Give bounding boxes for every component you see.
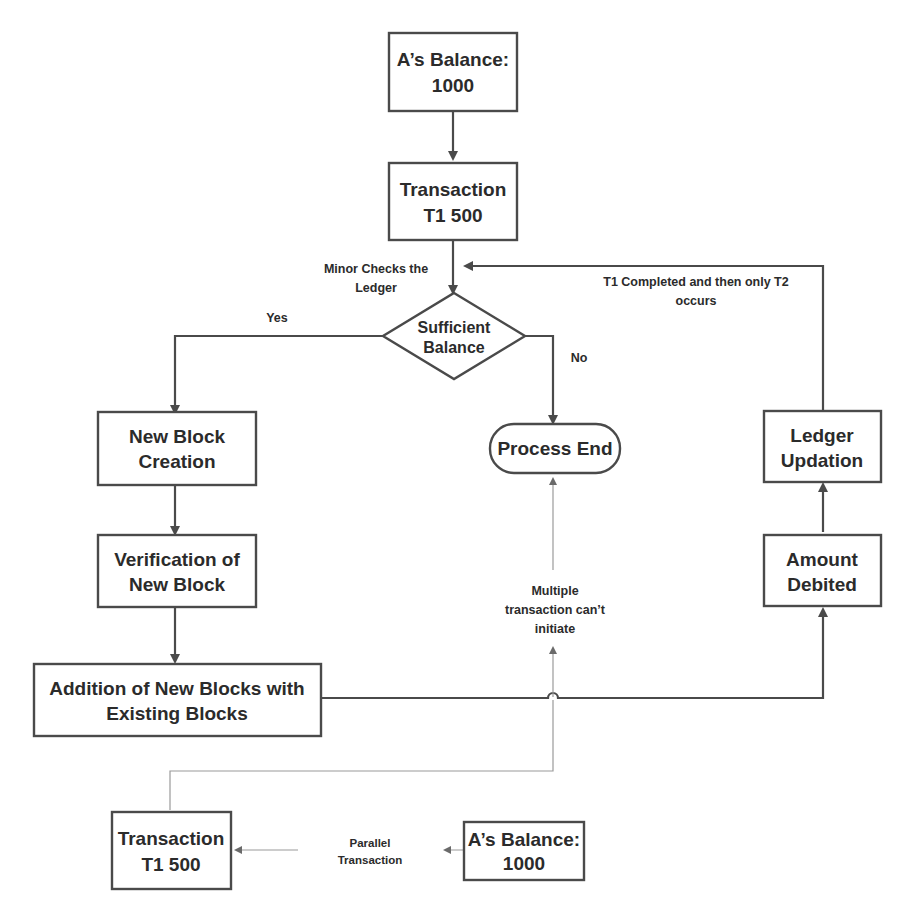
- svg-text:T1 Completed and then only T2: T1 Completed and then only T2: [603, 275, 788, 289]
- svg-text:Creation: Creation: [138, 451, 215, 472]
- svg-text:T1 500: T1 500: [423, 205, 482, 226]
- svg-text:A’s Balance:: A’s Balance:: [397, 49, 509, 70]
- svg-text:Addition of New Blocks with: Addition of New Blocks with: [49, 678, 304, 699]
- edge-no-to-process-end: [525, 336, 553, 420]
- svg-text:A’s Balance:: A’s Balance:: [468, 829, 580, 850]
- node-verification: Verification of New Block: [98, 535, 256, 607]
- svg-text:Transaction: Transaction: [338, 854, 403, 866]
- node-decision-sufficient-balance: Sufficient Balance: [383, 293, 525, 379]
- svg-text:Sufficient: Sufficient: [418, 319, 492, 336]
- flowchart-canvas: A’s Balance: 1000 Transaction T1 500 Suf…: [0, 0, 911, 919]
- label-yes: Yes: [266, 311, 288, 325]
- svg-text:Multiple: Multiple: [531, 584, 578, 598]
- svg-text:New Block: New Block: [129, 574, 226, 595]
- svg-text:Process End: Process End: [497, 438, 612, 459]
- node-transaction-top: Transaction T1 500: [389, 163, 517, 240]
- node-transaction-bottom: Transaction T1 500: [112, 812, 231, 889]
- svg-text:transaction can’t: transaction can’t: [505, 603, 606, 617]
- svg-text:Updation: Updation: [781, 450, 863, 471]
- node-addition-of-blocks: Addition of New Blocks with Existing Blo…: [34, 664, 321, 736]
- svg-text:Transaction: Transaction: [118, 828, 225, 849]
- svg-text:Parallel: Parallel: [350, 837, 391, 849]
- svg-text:1000: 1000: [432, 75, 474, 96]
- svg-text:Balance: Balance: [423, 339, 484, 356]
- label-t1-completed: T1 Completed and then only T2 occurs: [603, 275, 788, 308]
- node-amount-debited: Amount Debited: [764, 535, 881, 606]
- svg-text:Ledger: Ledger: [790, 425, 854, 446]
- svg-text:T1 500: T1 500: [141, 854, 200, 875]
- label-minor-checks: Minor Checks the Ledger: [324, 262, 428, 295]
- label-parallel-transaction: Parallel Transaction: [338, 837, 403, 866]
- svg-text:1000: 1000: [503, 853, 545, 874]
- svg-text:Minor Checks the: Minor Checks the: [324, 262, 428, 276]
- node-ledger-updation: Ledger Updation: [764, 411, 881, 482]
- svg-text:Transaction: Transaction: [400, 179, 507, 200]
- svg-text:initiate: initiate: [535, 622, 575, 636]
- svg-text:Verification of: Verification of: [114, 549, 240, 570]
- node-balance-bottom: A’s Balance: 1000: [464, 822, 584, 880]
- svg-text:occurs: occurs: [676, 294, 717, 308]
- node-process-end: Process End: [490, 424, 620, 473]
- svg-text:New Block: New Block: [129, 426, 226, 447]
- node-new-block-creation: New Block Creation: [98, 412, 256, 485]
- label-no: No: [571, 351, 588, 365]
- node-balance-top: A’s Balance: 1000: [389, 33, 517, 111]
- svg-text:Existing Blocks: Existing Blocks: [106, 703, 248, 724]
- svg-text:Ledger: Ledger: [355, 281, 397, 295]
- svg-text:Debited: Debited: [787, 574, 857, 595]
- label-multiple-transaction: Multiple transaction can’t initiate: [505, 584, 606, 636]
- svg-text:Amount: Amount: [786, 549, 858, 570]
- edge-yes-to-new-block: [175, 336, 383, 410]
